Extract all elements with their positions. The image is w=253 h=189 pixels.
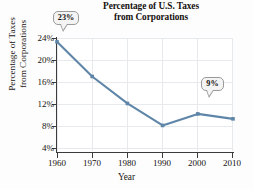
data-point [231, 117, 235, 121]
data-point [126, 102, 130, 106]
data-point [161, 124, 165, 128]
callout-start-value: 23% [53, 11, 79, 25]
chart-container: Percentage of U.S. Taxes from Corporatio… [0, 0, 253, 189]
callout-end-value: 9% [201, 77, 224, 91]
callout-end-tail-inner [207, 90, 213, 96]
x-axis-title: Year [0, 172, 253, 182]
data-point [196, 112, 200, 116]
data-series [0, 0, 253, 189]
data-point [90, 75, 94, 79]
data-point [55, 40, 59, 44]
callout-start-tail-inner [61, 24, 67, 30]
